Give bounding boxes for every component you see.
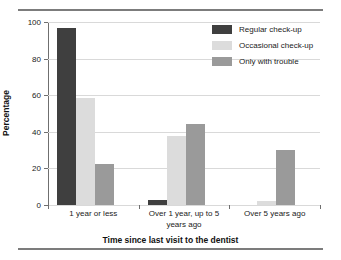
bar (257, 201, 276, 205)
category-label-line: Over 1 year, up to 5 (139, 208, 230, 219)
category-label-line: 1 year or less (48, 208, 139, 219)
bar (167, 136, 186, 205)
y-tick-label-100: 100 (28, 18, 41, 27)
category-label-line: Over 5 years ago (229, 208, 320, 219)
legend-item-2[interactable]: Only with trouble (212, 54, 313, 68)
x-axis-label: Time since last visit to the dentist (0, 235, 341, 245)
y-axis-label: Percentage (1, 90, 11, 136)
bar (95, 164, 114, 205)
bar (186, 124, 205, 205)
legend-label: Only with trouble (239, 57, 299, 66)
x-tick-3 (320, 205, 321, 209)
bar (57, 28, 76, 205)
legend-item-1[interactable]: Occasional check-up (212, 38, 313, 52)
y-tick-label-0: 0 (37, 201, 41, 210)
gridline-0 (48, 205, 320, 206)
top-rule (18, 9, 323, 11)
legend-swatch (212, 25, 232, 34)
y-tick-label-40: 40 (32, 127, 41, 136)
category-label-line: years ago (139, 219, 230, 230)
chart-figure: Percentage 020406080100 1 year or lessOv… (0, 0, 341, 260)
category-label-0: 1 year or less (48, 208, 139, 219)
legend-label: Regular check-up (239, 25, 302, 34)
bar (148, 200, 167, 205)
legend-swatch (212, 57, 232, 66)
y-tick-label-20: 20 (32, 164, 41, 173)
legend-item-0[interactable]: Regular check-up (212, 22, 313, 36)
y-tick-label-80: 80 (32, 54, 41, 63)
chart-legend: Regular check-upOccasional check-upOnly … (212, 22, 313, 70)
category-label-2: Over 5 years ago (229, 208, 320, 219)
bar (276, 150, 295, 205)
legend-swatch (212, 41, 232, 50)
bar (76, 98, 95, 205)
legend-label: Occasional check-up (239, 41, 313, 50)
y-tick-label-60: 60 (32, 91, 41, 100)
category-label-1: Over 1 year, up to 5years ago (139, 208, 230, 230)
bottom-rule (18, 248, 323, 250)
